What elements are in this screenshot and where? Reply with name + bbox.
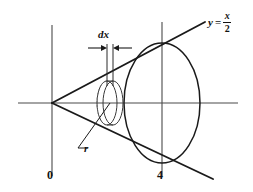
upper-generator-line [52, 22, 205, 103]
equation-fraction: x 2 [223, 11, 231, 34]
equation-lhs: y [208, 17, 213, 28]
generator-equation-label: y = x 2 [208, 11, 231, 34]
equation-denominator: 2 [224, 23, 231, 34]
disk-radius-line [93, 103, 110, 127]
radius-label: r [84, 143, 88, 154]
origin-tick-label: 0 [47, 169, 53, 181]
equation-equals-sign: = [215, 17, 221, 28]
four-tick-label: 4 [157, 169, 163, 181]
dx-label: dx [98, 29, 109, 40]
equation-numerator: x [224, 11, 231, 22]
dx-arrowhead-left [101, 45, 107, 51]
dx-arrowhead-right [113, 45, 119, 51]
cone-volume-diagram: dx r 0 4 y = x 2 [0, 0, 253, 192]
